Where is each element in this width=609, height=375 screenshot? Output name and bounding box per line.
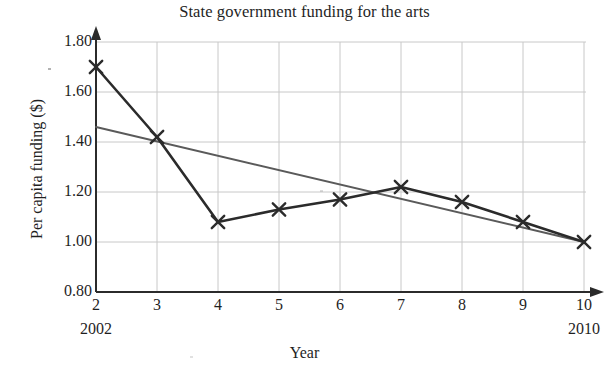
scan-speck <box>190 356 193 358</box>
x-axis-arrowhead <box>590 287 604 297</box>
y-axis-arrowhead <box>91 26 101 40</box>
scan-speck <box>48 68 51 70</box>
scan-speck <box>320 190 323 192</box>
chart-container: State government funding for the arts Pe… <box>0 0 609 375</box>
plot-area <box>0 0 609 375</box>
